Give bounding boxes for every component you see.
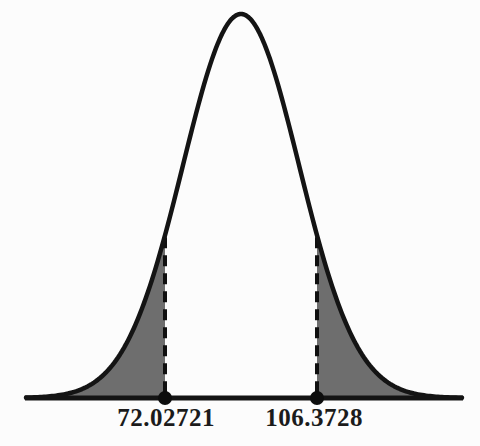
right-cutoff-label: 106.3728 — [265, 404, 363, 432]
left-cutoff-label: 72.02721 — [117, 404, 215, 432]
left-cutoff-dot — [158, 391, 172, 405]
bell-curve-plot — [0, 0, 480, 446]
bell-curve-line — [26, 14, 462, 398]
left-tail-shaded-area — [26, 235, 165, 398]
right-cutoff-dot — [310, 391, 324, 405]
right-tail-shaded-area — [317, 235, 462, 398]
normal-curve-figure: 72.02721 106.3728 — [0, 0, 480, 446]
